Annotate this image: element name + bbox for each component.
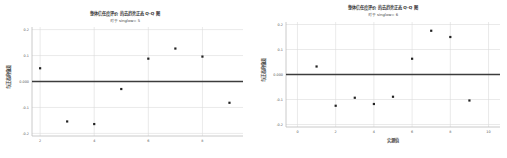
data-point xyxy=(174,47,176,49)
x-tick-label: 6 xyxy=(411,130,413,134)
data-point xyxy=(66,120,68,122)
y-tick-label: 0.2 xyxy=(24,28,29,32)
data-point xyxy=(392,96,394,98)
qq-charts: 整体信任度评价 的去趋势正态 Q-Q 图对于 singlow= 50.20.10… xyxy=(0,0,507,158)
y-tick-label: -0.2 xyxy=(22,132,29,136)
y-tick-label: -0.2 xyxy=(276,123,283,127)
x-tick-label: 4 xyxy=(93,139,95,143)
chart-2: 整体信任度评价 的去趋势正态 Q-Q 图对于 singlow= 60.20.10… xyxy=(260,4,500,144)
chart-subtitle: 对于 singlow= 6 xyxy=(368,12,399,17)
y-tick-label: -0.1 xyxy=(276,98,283,102)
data-point xyxy=(468,99,470,101)
chart-title: 整体信任度评价 的去趋势正态 Q-Q 图 xyxy=(90,10,159,17)
x-tick-label: 2 xyxy=(335,130,337,134)
x-tick-label: 8 xyxy=(201,139,203,143)
data-point xyxy=(147,58,149,60)
data-point xyxy=(354,97,356,99)
x-axis-label: 实测值 xyxy=(387,137,400,144)
data-point xyxy=(430,30,432,32)
y-tick-label: 0.1 xyxy=(278,48,283,52)
y-axis-label: 与正态的偏差 xyxy=(260,57,267,82)
chart-subtitle: 对于 singlow= 5 xyxy=(110,18,141,23)
data-point xyxy=(228,102,230,104)
x-tick-label: 10 xyxy=(486,130,490,134)
data-point xyxy=(335,105,337,107)
y-tick-label: 0.000 xyxy=(273,73,283,77)
data-point xyxy=(201,55,203,57)
chart-title: 整体信任度评价 的去趋势正态 Q-Q 图 xyxy=(348,4,417,11)
y-tick-label: -0.1 xyxy=(22,106,29,110)
data-point xyxy=(373,103,375,105)
y-tick-label: 0.000 xyxy=(19,80,29,84)
y-tick-label: 0.1 xyxy=(24,54,29,58)
x-tick-label: 8 xyxy=(449,130,451,134)
y-tick-label: 0.2 xyxy=(278,23,283,27)
x-tick-label: 2 xyxy=(39,139,41,143)
x-tick-label: 0 xyxy=(296,130,298,134)
x-tick-label: 4 xyxy=(373,130,375,134)
y-axis-label: 与正态的偏差 xyxy=(5,64,12,89)
x-tick-label: 6 xyxy=(147,139,149,143)
data-point xyxy=(411,58,413,60)
data-point xyxy=(449,36,451,38)
chart-1: 整体信任度评价 的去趋势正态 Q-Q 图对于 singlow= 50.20.10… xyxy=(5,10,243,143)
data-point xyxy=(315,65,317,67)
data-point xyxy=(120,88,122,90)
data-point xyxy=(39,67,41,69)
data-point xyxy=(93,123,95,125)
